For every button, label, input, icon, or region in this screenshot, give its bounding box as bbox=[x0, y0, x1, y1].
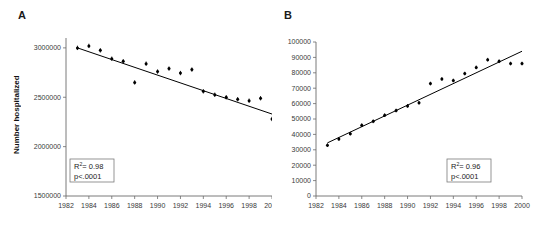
x-tick-label: 1992 bbox=[423, 202, 439, 209]
figure-two-panel-scatter: A Number hospitalized 150000020000002500… bbox=[0, 0, 541, 229]
x-tick-label: 1982 bbox=[58, 202, 74, 209]
y-tick-label: 2500000 bbox=[34, 94, 61, 101]
data-point bbox=[87, 44, 90, 47]
data-point bbox=[236, 98, 239, 101]
data-point bbox=[475, 66, 478, 69]
data-point bbox=[225, 96, 228, 99]
data-point bbox=[498, 60, 501, 63]
y-tick-label: 90000 bbox=[292, 54, 312, 61]
data-point bbox=[190, 68, 193, 71]
panel-b-plot: 0100002000030000400005000060000700008000… bbox=[272, 0, 541, 229]
x-tick-label: 1982 bbox=[308, 202, 324, 209]
x-tick-label: 1984 bbox=[331, 202, 347, 209]
data-point bbox=[76, 46, 79, 49]
y-tick-label: 40000 bbox=[292, 131, 312, 138]
stats-r-squared: R2= 0.96 bbox=[451, 161, 480, 171]
data-point bbox=[110, 57, 113, 60]
x-tick-label: 1988 bbox=[127, 202, 143, 209]
x-tick-label: 2000 bbox=[264, 202, 272, 209]
data-point bbox=[463, 72, 466, 75]
panel-b: B 01000020000300004000050000600007000080… bbox=[272, 0, 541, 229]
data-point bbox=[213, 93, 216, 96]
y-tick-label: 60000 bbox=[292, 100, 312, 107]
y-tick-label: 50000 bbox=[292, 115, 312, 122]
data-point bbox=[248, 99, 251, 102]
data-point bbox=[349, 132, 352, 135]
y-tick-label: 10000 bbox=[292, 177, 312, 184]
data-point bbox=[202, 90, 205, 93]
y-tick-label: 100000 bbox=[288, 38, 311, 45]
panel-a-label: A bbox=[18, 9, 26, 21]
data-point bbox=[326, 144, 329, 147]
data-point bbox=[360, 124, 363, 127]
x-tick-label: 1984 bbox=[81, 202, 97, 209]
x-tick-label: 2000 bbox=[514, 202, 530, 209]
panel-b-label: B bbox=[284, 9, 292, 21]
x-tick-label: 1994 bbox=[196, 202, 212, 209]
x-tick-label: 1998 bbox=[491, 202, 507, 209]
data-point bbox=[372, 120, 375, 123]
data-point bbox=[521, 62, 524, 65]
x-tick-label: 1990 bbox=[400, 202, 416, 209]
stats-p-value: p<.0001 bbox=[451, 172, 478, 181]
y-tick-label: 30000 bbox=[292, 146, 312, 153]
data-point bbox=[337, 138, 340, 141]
x-tick-label: 1992 bbox=[173, 202, 189, 209]
x-tick-label: 1986 bbox=[354, 202, 370, 209]
x-tick-label: 1990 bbox=[150, 202, 166, 209]
data-point bbox=[395, 109, 398, 112]
y-tick-label: 0 bbox=[307, 192, 311, 199]
stats-r-squared: R2= 0.98 bbox=[74, 161, 103, 171]
data-point bbox=[259, 97, 262, 100]
trend-line bbox=[77, 48, 272, 114]
data-point bbox=[452, 79, 455, 82]
y-tick-label: 3000000 bbox=[34, 44, 61, 51]
data-point bbox=[156, 70, 159, 73]
panel-a-plot: 1500000200000025000003000000198219841986… bbox=[0, 0, 272, 229]
trend-line bbox=[327, 51, 522, 143]
x-tick-label: 1996 bbox=[218, 202, 234, 209]
data-point bbox=[429, 82, 432, 85]
data-point bbox=[122, 60, 125, 63]
y-tick-label: 20000 bbox=[292, 162, 312, 169]
data-point bbox=[179, 72, 182, 75]
x-tick-label: 1988 bbox=[377, 202, 393, 209]
data-point bbox=[133, 81, 136, 84]
y-tick-label: 80000 bbox=[292, 69, 312, 76]
data-point bbox=[145, 62, 148, 65]
data-point bbox=[440, 77, 443, 80]
data-point bbox=[383, 114, 386, 117]
data-point bbox=[99, 49, 102, 52]
x-tick-label: 1998 bbox=[241, 202, 257, 209]
panel-a-y-axis-title: Number hospitalized bbox=[12, 60, 21, 170]
data-point bbox=[418, 101, 421, 104]
panel-a: A Number hospitalized 150000020000002500… bbox=[0, 0, 272, 229]
data-point bbox=[168, 67, 171, 70]
x-tick-label: 1996 bbox=[468, 202, 484, 209]
x-tick-label: 1986 bbox=[104, 202, 120, 209]
y-tick-label: 70000 bbox=[292, 85, 312, 92]
y-tick-label: 1500000 bbox=[34, 192, 61, 199]
data-point bbox=[406, 104, 409, 107]
data-point bbox=[486, 58, 489, 61]
stats-p-value: p<.0001 bbox=[74, 172, 101, 181]
x-tick-label: 1994 bbox=[446, 202, 462, 209]
data-point bbox=[509, 62, 512, 65]
y-tick-label: 2000000 bbox=[34, 143, 61, 150]
